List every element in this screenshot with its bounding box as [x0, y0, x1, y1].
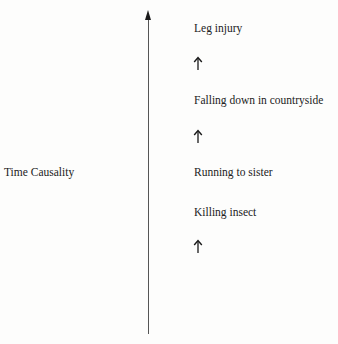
event-killing-insect: Killing insect: [194, 205, 256, 219]
event-running-to-sister: Running to sister: [194, 165, 273, 179]
arrow-up-icon: [193, 129, 203, 143]
event-falling-down: Falling down in countryside: [194, 93, 323, 107]
time-axis-line: [148, 20, 149, 334]
axis-label: Time Causality: [4, 165, 74, 179]
event-leg-injury: Leg injury: [194, 21, 242, 35]
axis-arrowhead-icon: [145, 10, 151, 20]
arrow-up-icon: [193, 239, 203, 253]
causality-diagram: Time Causality Leg injury Falling down i…: [0, 0, 338, 344]
arrow-up-icon: [193, 56, 203, 70]
